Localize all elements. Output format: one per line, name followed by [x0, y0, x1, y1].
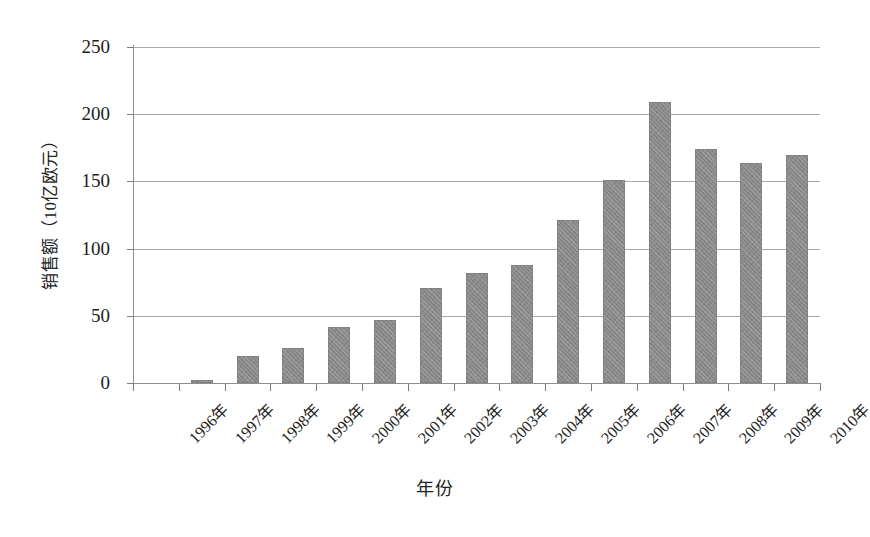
- x-axis-tick-label: 2002年: [457, 397, 508, 448]
- x-axis-tick-mark: [179, 384, 180, 391]
- x-axis-tick-label: 1997年: [228, 397, 279, 448]
- x-axis-title: 年份: [0, 474, 870, 500]
- bar: [282, 348, 304, 383]
- x-axis-tick-label: 2006年: [640, 397, 691, 448]
- bar: [740, 163, 762, 383]
- x-axis-tick-mark: [637, 384, 638, 391]
- bar: [374, 320, 396, 383]
- x-axis-tick-label: 1996年: [182, 397, 233, 448]
- x-axis-tick-label: 2008年: [732, 397, 783, 448]
- bar-series: [133, 47, 820, 383]
- x-axis-tick-label: 2005年: [594, 397, 645, 448]
- x-axis-tick-label: 2003年: [503, 397, 554, 448]
- x-axis-tick-mark: [728, 384, 729, 391]
- y-axis-tick-label: 100: [58, 239, 110, 258]
- x-axis-tick-label: 2009年: [777, 397, 828, 448]
- x-axis-tick-mark: [591, 384, 592, 391]
- y-axis-tick-label: 200: [58, 104, 110, 123]
- bar: [557, 220, 579, 383]
- x-axis-tick-mark: [683, 384, 684, 391]
- x-axis-tick-label: 1998年: [274, 397, 325, 448]
- x-axis-tick-mark: [545, 384, 546, 391]
- x-axis-tick-labels: 1996年1997年1998年1999年2000年2001年2002年2003年…: [133, 383, 820, 483]
- bar: [695, 149, 717, 383]
- bar: [511, 265, 533, 383]
- x-axis-tick-mark: [316, 384, 317, 391]
- bar: [649, 102, 671, 383]
- bar: [237, 356, 259, 383]
- x-axis-tick-label: 2001年: [411, 397, 462, 448]
- x-axis-tick-mark: [133, 384, 134, 391]
- x-axis-tick-label: 2010年: [823, 397, 870, 448]
- x-axis-tick-label: 2000年: [365, 397, 416, 448]
- x-axis-tick-label: 1999年: [319, 397, 370, 448]
- bar: [786, 155, 808, 383]
- x-axis-tick-mark: [270, 384, 271, 391]
- x-axis-tick-mark: [362, 384, 363, 391]
- y-axis-tick-label: 150: [58, 171, 110, 190]
- y-axis-tick-labels: 050100150200250: [52, 0, 110, 537]
- x-axis-tick-mark: [454, 384, 455, 391]
- y-axis-tick-label: 50: [58, 306, 110, 325]
- x-axis-tick-mark: [499, 384, 500, 391]
- x-axis-tick-mark: [820, 384, 821, 391]
- x-axis-tick-mark: [408, 384, 409, 391]
- x-axis-tick-mark: [225, 384, 226, 391]
- x-axis-tick-label: 2007年: [686, 397, 737, 448]
- bar-chart-figure: 销售额（10亿欧元） 050100150200250 1996年1997年199…: [0, 0, 870, 537]
- bar: [466, 273, 488, 383]
- x-axis-tick-label: 2004年: [548, 397, 599, 448]
- y-axis-tick-label: 250: [58, 37, 110, 56]
- plot-area: [133, 47, 820, 383]
- bar: [328, 327, 350, 383]
- bar: [420, 288, 442, 383]
- y-axis-tick-label: 0: [58, 373, 110, 392]
- bar: [603, 180, 625, 383]
- x-axis-tick-mark: [774, 384, 775, 391]
